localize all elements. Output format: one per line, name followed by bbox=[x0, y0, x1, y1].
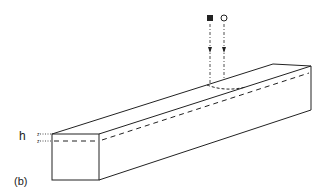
bar-far-top-edge bbox=[273, 64, 311, 66]
h-tick-mark-bottom: z bbox=[37, 138, 40, 144]
h-tick-mark-top: z bbox=[37, 131, 40, 137]
depth-line-side bbox=[102, 73, 309, 140]
dimension-label-h: h bbox=[19, 130, 26, 142]
filled-square-marker-icon bbox=[207, 15, 213, 21]
arrow-head-2-icon bbox=[222, 47, 226, 53]
bar-top-front-edge bbox=[99, 66, 311, 134]
beam-diagram: z z bbox=[0, 0, 328, 194]
panel-label: (b) bbox=[14, 175, 27, 187]
open-circle-marker-icon bbox=[221, 15, 227, 21]
bar-bottom-edge bbox=[99, 110, 311, 180]
arrow-head-1-icon bbox=[208, 47, 212, 53]
bar-top-back-edge bbox=[52, 64, 273, 134]
